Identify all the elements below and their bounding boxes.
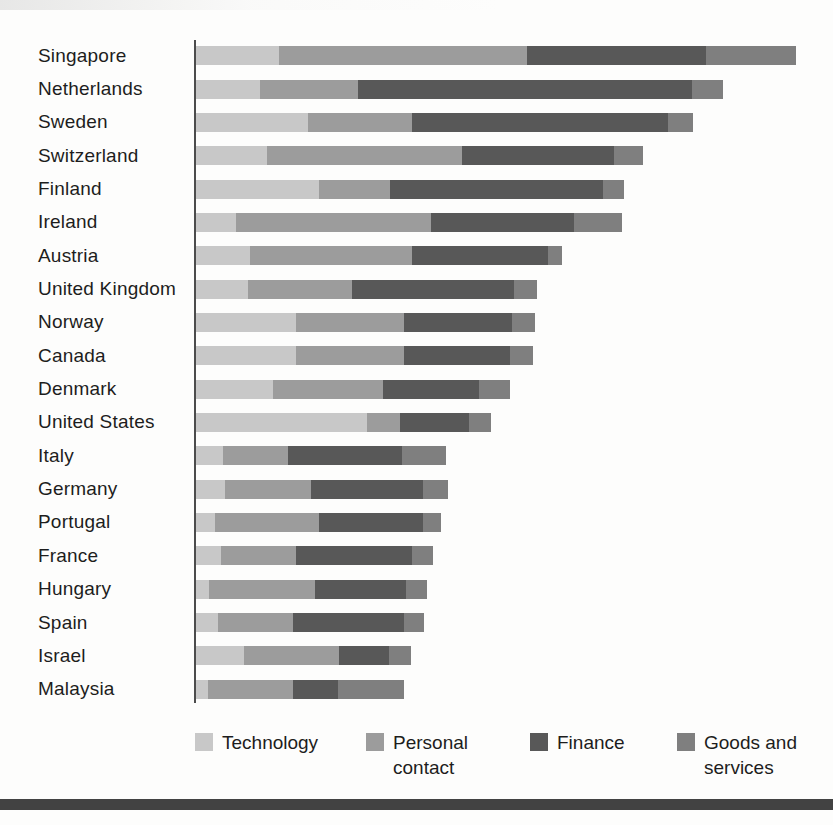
bar-segment-technology [196, 413, 367, 432]
bar-row: Italy [0, 439, 833, 472]
bar-segment-finance [527, 46, 706, 65]
bar-segment-goods-and-services [404, 613, 424, 632]
bar-segment-personal-contact [273, 380, 383, 399]
bar-segment-goods-and-services [574, 213, 622, 232]
category-label: Italy [38, 445, 190, 467]
bar-row: Spain [0, 606, 833, 639]
stacked-bar [196, 680, 404, 699]
bar-segment-personal-contact [260, 80, 358, 99]
bar-row: Canada [0, 339, 833, 372]
bar-segment-personal-contact [250, 246, 412, 265]
bar-segment-personal-contact [319, 180, 390, 199]
bar-segment-technology [196, 180, 319, 199]
bar-segment-personal-contact [296, 346, 404, 365]
bar-segment-personal-contact [221, 546, 296, 565]
stacked-bar [196, 380, 510, 399]
stacked-bar [196, 246, 562, 265]
legend-swatch-icon [530, 733, 548, 751]
category-label: Ireland [38, 211, 190, 233]
bar-segment-goods-and-services [706, 46, 796, 65]
stacked-bar [196, 113, 693, 132]
bar-segment-goods-and-services [423, 513, 441, 532]
chart-page: SingaporeNetherlandsSwedenSwitzerlandFin… [0, 0, 833, 825]
bar-row: United Kingdom [0, 272, 833, 305]
bar-segment-finance [339, 646, 389, 665]
bar-segment-goods-and-services [614, 146, 643, 165]
bar-segment-technology [196, 213, 236, 232]
bar-segment-personal-contact [208, 680, 293, 699]
bar-segment-goods-and-services [603, 180, 624, 199]
bar-segment-technology [196, 46, 279, 65]
category-label: Switzerland [38, 145, 190, 167]
bar-segment-technology [196, 480, 225, 499]
bar-segment-finance [400, 413, 469, 432]
bar-segment-finance [412, 113, 668, 132]
bar-segment-goods-and-services [406, 580, 427, 599]
category-label: Sweden [38, 111, 190, 133]
bar-row: Hungary [0, 573, 833, 606]
category-label: Austria [38, 245, 190, 267]
legend-label: Personal contact [393, 730, 468, 780]
bar-row: Singapore [0, 39, 833, 72]
bar-segment-personal-contact [209, 580, 315, 599]
bar-segment-technology [196, 246, 250, 265]
bar-segment-goods-and-services [514, 280, 537, 299]
category-label: Finland [38, 178, 190, 200]
bar-segment-technology [196, 446, 223, 465]
category-label: Germany [38, 478, 190, 500]
bar-segment-goods-and-services [548, 246, 562, 265]
category-label: France [38, 545, 190, 567]
stacked-bar [196, 180, 624, 199]
bar-segment-technology [196, 613, 218, 632]
bar-segment-technology [196, 646, 244, 665]
category-label: Singapore [38, 45, 190, 67]
stacked-bar [196, 146, 643, 165]
legend-label: Goods and services [704, 730, 797, 780]
category-label: United States [38, 411, 190, 433]
bar-row: Portugal [0, 506, 833, 539]
bar-segment-goods-and-services [469, 413, 491, 432]
bar-segment-finance [404, 313, 512, 332]
bar-row: Switzerland [0, 139, 833, 172]
category-label: United Kingdom [38, 278, 190, 300]
bar-segment-finance [358, 80, 692, 99]
bar-segment-technology [196, 313, 296, 332]
bar-segment-goods-and-services [510, 346, 533, 365]
bar-row: Sweden [0, 106, 833, 139]
stacked-bar [196, 413, 491, 432]
bar-segment-finance [288, 446, 402, 465]
category-label: Canada [38, 345, 190, 367]
bar-row: Austria [0, 239, 833, 272]
bar-segment-goods-and-services [668, 113, 693, 132]
bar-segment-technology [196, 280, 248, 299]
bar-segment-personal-contact [267, 146, 462, 165]
legend-item: Goods and services [677, 733, 797, 780]
bar-segment-finance [319, 513, 423, 532]
bar-row: Ireland [0, 206, 833, 239]
stacked-bar [196, 546, 433, 565]
bar-segment-personal-contact [296, 313, 404, 332]
category-label: Denmark [38, 378, 190, 400]
bar-segment-finance [390, 180, 603, 199]
stacked-bar [196, 613, 424, 632]
bar-segment-goods-and-services [412, 546, 433, 565]
legend-swatch-icon [366, 733, 384, 751]
category-label: Netherlands [38, 78, 190, 100]
bar-segment-personal-contact [248, 280, 352, 299]
bar-segment-technology [196, 580, 209, 599]
bar-row: Denmark [0, 372, 833, 405]
bar-rows: SingaporeNetherlandsSwedenSwitzerlandFin… [0, 39, 833, 706]
legend-item: Technology [195, 733, 318, 755]
bar-segment-finance [352, 280, 514, 299]
legend-item: Finance [530, 733, 625, 755]
bar-segment-personal-contact [236, 213, 431, 232]
legend-label: Technology [222, 730, 318, 755]
stacked-bar [196, 213, 622, 232]
bar-segment-technology [196, 80, 260, 99]
category-label: Malaysia [38, 678, 190, 700]
stacked-bar [196, 446, 446, 465]
bar-segment-personal-contact [225, 480, 311, 499]
bar-segment-finance [404, 346, 510, 365]
stacked-bar [196, 280, 537, 299]
bar-row: France [0, 539, 833, 572]
